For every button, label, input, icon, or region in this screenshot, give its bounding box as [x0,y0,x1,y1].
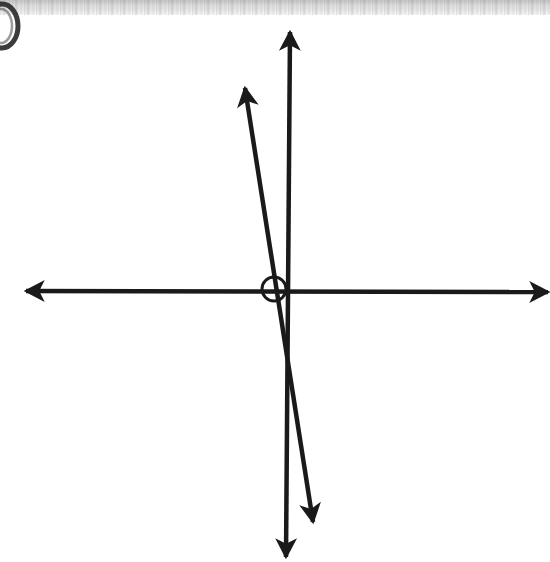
transversal-line [245,88,313,522]
geometry-figure [0,0,550,562]
diagram-page [0,0,550,562]
vertical-axis-line [286,32,290,557]
